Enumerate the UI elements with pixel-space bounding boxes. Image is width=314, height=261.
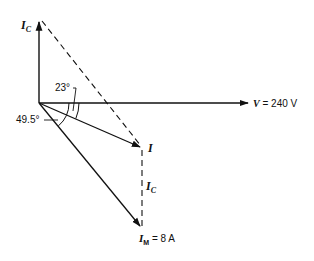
- leader-23: [73, 88, 76, 111]
- label-current-i: I: [147, 141, 154, 155]
- label-angle-49: 49.5°: [16, 114, 39, 125]
- label-angle-23: 23°: [55, 82, 70, 93]
- label-im: IM = 8 A: [138, 232, 175, 246]
- angle-arc-23: [76, 103, 79, 119]
- phasor-diagram: IC 23° 49.5° V = 240 V I IC IM = 8 A: [0, 0, 314, 261]
- current-im-phasor: [39, 103, 140, 226]
- label-ic-top: IC: [20, 18, 32, 34]
- label-voltage: V = 240 V: [253, 98, 298, 109]
- label-ic-middle: IC: [145, 179, 157, 195]
